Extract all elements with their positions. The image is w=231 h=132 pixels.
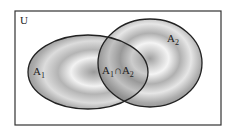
venn-diagram: U A1 A2 A1∩A2 [0, 0, 231, 132]
universe-label: U [20, 14, 28, 26]
